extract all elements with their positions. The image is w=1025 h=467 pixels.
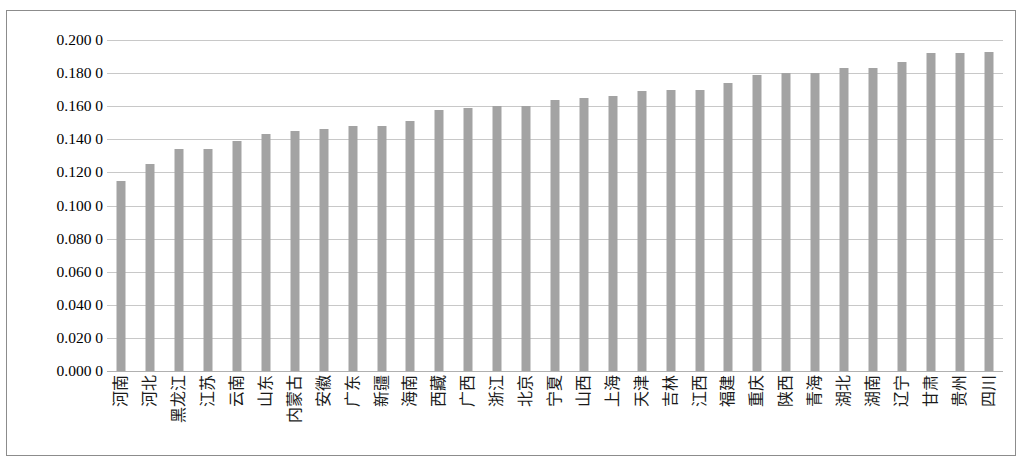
bar[interactable] [377,126,386,371]
bar-slot [714,40,743,371]
bar[interactable] [984,52,993,371]
bar-slot [743,40,772,371]
bar[interactable] [608,96,617,371]
x-axis-tick-text: 湖南 [865,375,881,407]
x-axis-tick-label: 黑龙江 [165,373,194,457]
x-axis-tick-label: 宁夏 [541,373,570,457]
bar-slot [454,40,483,371]
y-axis-tick-label: 0.200 0 [11,32,103,48]
bar[interactable] [493,106,502,371]
x-axis-tick-text: 新疆 [374,375,390,407]
x-axis-tick-label: 河北 [136,373,165,457]
x-axis-tick-label: 广西 [454,373,483,457]
bar[interactable] [550,100,559,371]
bar[interactable] [724,83,733,371]
x-axis-tick-label: 河南 [107,373,136,457]
gridline [107,371,1003,372]
y-axis-tick-label: 0.040 0 [11,297,103,313]
x-axis-tick-label: 新疆 [367,373,396,457]
x-axis-tick-text: 山西 [576,375,592,407]
x-axis-tick-label: 陕西 [772,373,801,457]
bar[interactable] [406,121,415,371]
bar[interactable] [926,53,935,371]
x-axis-tick-label: 湖北 [830,373,859,457]
x-axis-tick-label: 青海 [801,373,830,457]
x-axis-tick-text: 河南 [113,375,129,407]
y-axis-tick-label: 0.080 0 [11,231,103,247]
bar[interactable] [348,126,357,371]
bar-slot [858,40,887,371]
x-axis-tick-text: 四川 [981,375,997,407]
bar[interactable] [955,53,964,371]
x-axis-tick-label: 福建 [714,373,743,457]
x-axis-tick-label: 北京 [512,373,541,457]
x-axis-tick-text: 山东 [258,375,274,407]
y-axis-tick-label: 0.000 0 [11,363,103,379]
x-axis-tick-label: 云南 [223,373,252,457]
bar[interactable] [811,73,820,371]
x-axis-tick-label: 山西 [569,373,598,457]
x-axis-tick-text: 云南 [229,375,245,407]
bar[interactable] [117,181,126,371]
bar[interactable] [175,149,184,371]
bar[interactable] [695,90,704,371]
bar-slot [396,40,425,371]
y-axis-tick-label: 0.140 0 [11,132,103,148]
bar[interactable] [637,91,646,371]
x-axis-tick-text: 黑龙江 [171,375,187,423]
bar[interactable] [868,68,877,371]
x-axis-tick-text: 福建 [720,375,736,407]
x-axis-tick-text: 安徽 [316,375,332,407]
x-axis-tick-label: 浙江 [483,373,512,457]
x-axis-tick-label: 山东 [252,373,281,457]
x-axis-tick-text: 北京 [518,375,534,407]
bar[interactable] [522,106,531,371]
x-axis-tick-text: 广西 [460,375,476,407]
y-axis-tick-label: 0.160 0 [11,98,103,114]
bar-slot [136,40,165,371]
bar-slot [598,40,627,371]
bar[interactable] [319,129,328,371]
x-axis-tick-label: 江苏 [194,373,223,457]
bar[interactable] [435,110,444,371]
bar[interactable] [233,141,242,371]
bar[interactable] [464,108,473,371]
bar-slot [916,40,945,371]
x-axis-tick-text: 湖北 [836,375,852,407]
x-axis-tick-text: 河北 [142,375,158,407]
x-axis-tick-text: 贵州 [952,375,968,407]
bar-slot [512,40,541,371]
x-axis-tick-text: 陕西 [778,375,794,407]
x-axis-tick-text: 海南 [402,375,418,407]
plot-area [107,40,1003,371]
bar-slot [569,40,598,371]
bar[interactable] [897,62,906,371]
x-axis-tick-text: 青海 [807,375,823,407]
bar-slot [309,40,338,371]
y-axis-tick-label: 0.100 0 [11,198,103,214]
x-axis-tick-text: 西藏 [431,375,447,407]
bar[interactable] [261,134,270,371]
bar-slot [541,40,570,371]
bar-slot [945,40,974,371]
bar[interactable] [579,98,588,371]
bar[interactable] [782,73,791,371]
bar-slot [887,40,916,371]
bar-slot [801,40,830,371]
y-axis-tick-label: 0.060 0 [11,264,103,280]
x-axis-tick-label: 天津 [627,373,656,457]
bar[interactable] [840,68,849,371]
x-axis-tick-label: 吉林 [656,373,685,457]
bar[interactable] [753,75,762,371]
x-axis-tick-text: 江西 [692,375,708,407]
bar[interactable] [666,90,675,371]
bar-slot [223,40,252,371]
bar-slot [656,40,685,371]
x-axis-tick-label: 湖南 [858,373,887,457]
x-axis-tick-label: 贵州 [945,373,974,457]
x-axis-tick-label: 重庆 [743,373,772,457]
bar-slot [194,40,223,371]
bar[interactable] [146,164,155,371]
bar[interactable] [204,149,213,371]
bar[interactable] [290,131,299,371]
